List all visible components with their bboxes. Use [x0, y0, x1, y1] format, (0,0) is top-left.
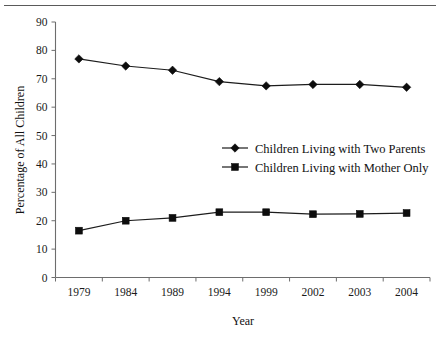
- x-axis-ticks: [56, 278, 431, 282]
- data-point-marker: [309, 80, 317, 88]
- x-tick-label: 2003: [348, 286, 371, 298]
- y-axis-tick-labels: 0102030405060708090: [36, 16, 48, 284]
- data-point-marker: [215, 77, 223, 85]
- y-tick-label: 30: [36, 186, 48, 198]
- x-axis-tick-labels: 19791984198919941999200220032004: [67, 286, 418, 298]
- data-point-marker: [122, 62, 130, 70]
- series-two-parents-markers: [75, 55, 411, 92]
- data-point-marker: [168, 66, 176, 74]
- chart-page: 0102030405060708090 19791984198919941999…: [0, 0, 440, 339]
- data-point-marker: [356, 80, 364, 88]
- data-point-marker: [402, 83, 410, 91]
- data-point-marker: [76, 227, 83, 234]
- legend-marker-diamond-icon: [231, 144, 239, 152]
- x-tick-label: 2004: [395, 286, 418, 298]
- data-point-marker: [356, 211, 363, 218]
- y-axis-title: Percentage of All Children: [13, 86, 27, 214]
- y-tick-label: 60: [36, 101, 48, 113]
- data-point-marker: [403, 210, 410, 217]
- data-point-marker: [263, 209, 270, 216]
- y-tick-label: 20: [36, 215, 48, 227]
- x-axis-title: Year: [232, 314, 254, 328]
- x-tick-label: 1999: [255, 286, 278, 298]
- chart-legend: Children Living with Two ParentsChildren…: [222, 142, 429, 175]
- data-point-marker: [310, 211, 317, 218]
- y-tick-label: 40: [36, 158, 48, 170]
- y-tick-label: 10: [36, 243, 48, 255]
- data-point-marker: [262, 82, 270, 90]
- legend-label: Children Living with Mother Only: [255, 161, 429, 175]
- x-tick-label: 1984: [114, 286, 137, 298]
- y-tick-label: 80: [36, 44, 48, 56]
- chart-svg: 0102030405060708090 19791984198919941999…: [0, 0, 440, 339]
- y-tick-label: 50: [36, 130, 48, 142]
- x-tick-label: 2002: [301, 286, 324, 298]
- y-tick-label: 0: [42, 272, 48, 284]
- x-tick-label: 1979: [67, 286, 90, 298]
- data-point-marker: [216, 209, 223, 216]
- data-point-marker: [75, 55, 83, 63]
- legend-marker-square-icon: [232, 164, 239, 171]
- data-point-marker: [169, 214, 176, 221]
- y-tick-label: 70: [36, 73, 48, 85]
- data-point-marker: [122, 217, 129, 224]
- x-tick-label: 1989: [161, 286, 184, 298]
- x-tick-label: 1994: [208, 286, 231, 298]
- line-chart: 0102030405060708090 19791984198919941999…: [0, 0, 440, 339]
- y-tick-label: 90: [36, 16, 48, 28]
- y-axis-ticks: [52, 22, 56, 278]
- legend-label: Children Living with Two Parents: [255, 142, 426, 156]
